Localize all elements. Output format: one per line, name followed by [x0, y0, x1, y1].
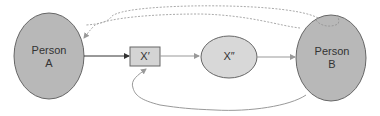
- person-b-line2: B: [305, 58, 359, 71]
- person-b-line1: Person: [305, 45, 359, 58]
- dotted-feedback-path-1: [86, 6, 318, 25]
- person-a-line1: Person: [22, 44, 76, 57]
- x-double-prime-label: X″: [213, 50, 245, 63]
- person-b-label: Person B: [305, 45, 359, 71]
- person-a-label: Person A: [22, 44, 76, 70]
- person-a-line2: A: [22, 57, 76, 70]
- x-prime-label: X′: [130, 50, 160, 63]
- dotted-feedback-path-2: [84, 14, 300, 38]
